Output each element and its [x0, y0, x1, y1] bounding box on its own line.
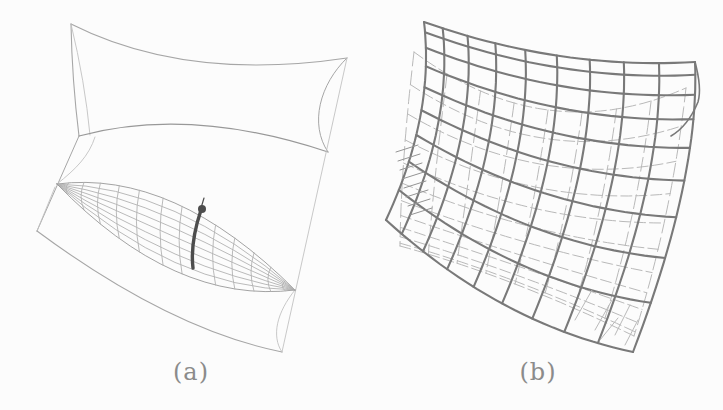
mesh-front	[386, 22, 695, 352]
pillow-surface-mesh-plot	[375, 0, 723, 410]
subfigure-a-label: (a)	[159, 358, 223, 386]
figure-canvas: (a) (b)	[0, 0, 723, 410]
pillow-surface-geodesic-plot	[0, 0, 375, 410]
marked-point	[198, 205, 206, 213]
lens-grid	[57, 182, 295, 291]
pillow-outline	[37, 24, 347, 352]
subfigure-b-label: (b)	[506, 358, 570, 386]
